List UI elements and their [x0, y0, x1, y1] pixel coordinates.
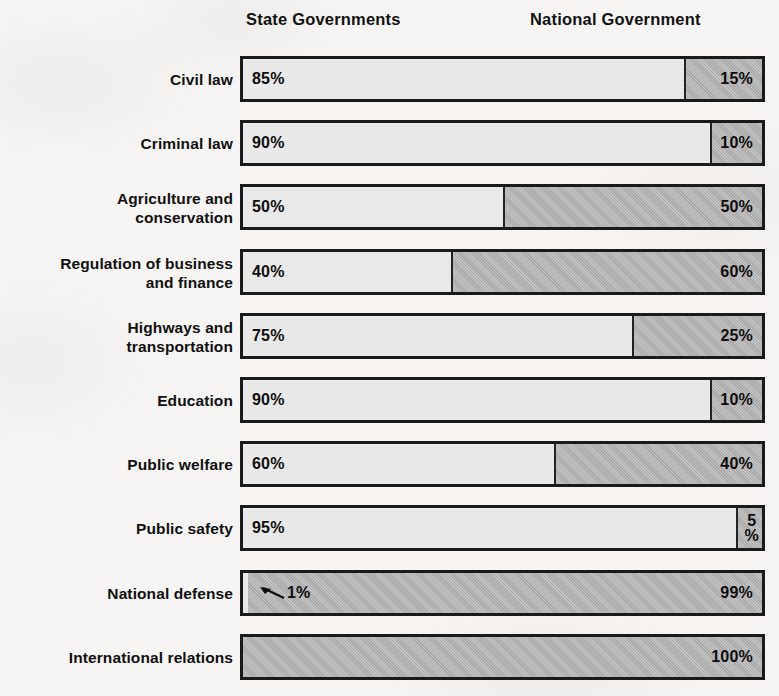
bar-value-national: 40%	[711, 455, 762, 473]
bar: 95%5%	[240, 505, 765, 551]
bar-segment-state: 90%	[243, 123, 710, 163]
bar-segment-national: 10%	[710, 380, 762, 420]
bar: 85%15%	[240, 56, 765, 102]
bar-segment-national: 50%	[503, 187, 763, 227]
bar-segment-state: 50%	[243, 187, 503, 227]
bar-segment-national: 5%	[736, 508, 762, 548]
bar: 99%1%	[240, 570, 765, 616]
bar-value-national-percent-sign: %	[745, 528, 759, 543]
row-label: Highways and transportation	[0, 318, 233, 356]
bar-value-state: 60%	[243, 455, 294, 473]
row-label: Agriculture and conservation	[0, 189, 233, 227]
row-label: International relations	[0, 648, 233, 667]
bar: 60%40%	[240, 441, 765, 487]
bar-value-state: 90%	[243, 391, 294, 409]
bar-value-state: 90%	[243, 134, 294, 152]
chart-row: Public safety95%5%	[0, 505, 779, 551]
bar-segment-national: 15%	[684, 59, 762, 99]
bar-value-state: 50%	[243, 198, 294, 216]
chart-row: National defense99%1%	[0, 570, 779, 616]
bar: 75%25%	[240, 313, 765, 359]
bar: 90%10%	[240, 377, 765, 423]
bar-value-state: 95%	[243, 519, 294, 537]
chart-row: Public welfare60%40%	[0, 441, 779, 487]
bar: 100%	[240, 634, 765, 680]
bar-value-national: 10%	[711, 391, 762, 409]
bar-value-national: 25%	[711, 327, 762, 345]
row-label: Criminal law	[0, 134, 233, 153]
row-label: Education	[0, 391, 233, 410]
bar-value-national: 5%	[742, 513, 762, 543]
chart-row: Highways and transportation75%25%	[0, 313, 779, 359]
bar-segment-national: 60%	[451, 252, 762, 292]
chart-row: Criminal law90%10%	[0, 120, 779, 166]
bar: 90%10%	[240, 120, 765, 166]
bar-value-state: 75%	[243, 327, 294, 345]
row-label: Regulation of business and finance	[0, 254, 233, 292]
stacked-bar-chart: Civil law85%15%Criminal law90%10%Agricul…	[0, 0, 779, 696]
bar-value-national-number: 5	[747, 513, 756, 528]
bar-segment-state: 75%	[243, 316, 632, 356]
bar-segment-state: 40%	[243, 252, 451, 292]
bar-segment-national: 25%	[632, 316, 762, 356]
bar-value-national: 99%	[711, 584, 762, 602]
bar-value-national: 10%	[711, 134, 762, 152]
chart-row: Regulation of business and finance40%60%	[0, 249, 779, 295]
bar-segment-national: 99%	[248, 573, 762, 613]
bar-segment-national: 100%	[243, 637, 762, 677]
bar-value-national: 60%	[711, 263, 762, 281]
row-label: Civil law	[0, 70, 233, 89]
bar: 50%50%	[240, 184, 765, 230]
bar-value-national: 50%	[711, 198, 762, 216]
chart-row: Education90%10%	[0, 377, 779, 423]
bar-value-national: 15%	[711, 70, 762, 88]
chart-row: Civil law85%15%	[0, 56, 779, 102]
bar-segment-state: 95%	[243, 508, 736, 548]
bar-segment-state: 85%	[243, 59, 684, 99]
row-label: Public welfare	[0, 455, 233, 474]
bar-value-state: 40%	[243, 263, 294, 281]
bar: 40%60%	[240, 249, 765, 295]
bar-segment-state: 90%	[243, 380, 710, 420]
chart-row: International relations100%	[0, 634, 779, 680]
chart-row: Agriculture and conservation50%50%	[0, 184, 779, 230]
row-label: Public safety	[0, 519, 233, 538]
bar-segment-state: 60%	[243, 444, 554, 484]
row-label: National defense	[0, 584, 233, 603]
bar-value-state: 85%	[243, 70, 294, 88]
bar-segment-national: 10%	[710, 123, 762, 163]
bar-value-national: 100%	[702, 648, 762, 666]
bar-segment-national: 40%	[554, 444, 762, 484]
